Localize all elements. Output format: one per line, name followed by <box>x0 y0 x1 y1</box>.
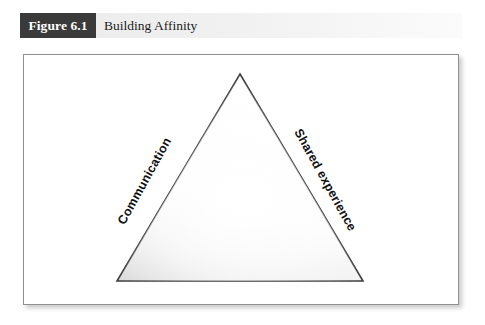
figure-frame: Communication Shared experience Affinity <box>23 54 459 305</box>
affinity-triangle-diagram: Communication Shared experience Affinity <box>24 55 460 306</box>
figure-page: Figure 6.1 Building Affinity <box>0 0 485 325</box>
figure-title: Building Affinity <box>104 13 197 38</box>
triangle-graphic <box>24 55 460 306</box>
figure-number-chip: Figure 6.1 <box>20 13 96 38</box>
